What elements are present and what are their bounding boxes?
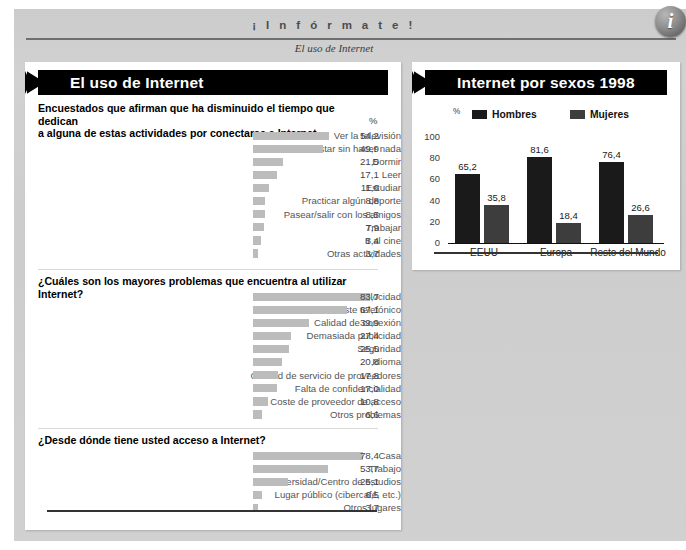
bar-row-bar-wrap [253,465,328,473]
bar-row: Calidad de conexión39,9 [25,316,401,329]
grouped-bar-mujeres [556,223,581,243]
bar-row-value: 6,5 [345,488,379,501]
bar-row-bar [253,410,262,418]
bar-row-bar [253,384,277,392]
bar-row-bar [253,236,261,244]
bar-row-bar [253,397,268,405]
left-panel-titlebar: El uso de Internet [38,70,388,95]
bar-row-value: 11,6 [345,181,379,194]
y-axis-tick-label: 60 [416,173,440,184]
bar-row-value: 17,1 [345,168,379,181]
bar-row: Coste telefónico67,1 [25,303,401,316]
bar-row-bar-wrap [253,384,277,392]
bar-row-value: 25,5 [345,342,379,355]
grouped-bar-hombres [455,174,480,243]
legend-item-hombres: Hombres [472,109,537,120]
bar-row-bar-wrap [253,145,323,153]
bar-row-bar-wrap [253,184,269,192]
bar-row-value: 49,9 [345,142,379,155]
bar-row-bar [253,184,269,192]
bar-row: Estudiar11,6 [25,181,401,194]
bar-row-bar-wrap [253,345,289,353]
bar-row-value: 78,4 [345,449,379,462]
bar-row-bar [253,491,262,499]
bar-row: Practicar algún deporte8,8 [25,194,401,207]
bar-row-value: 27,4 [345,329,379,342]
legend-swatch [472,110,487,119]
bar-row-value: 17,0 [345,382,379,395]
bar-row: Trabajar7,9 [25,221,401,234]
left-panel: El uso de Internet Encuestados que afirm… [25,62,401,530]
bar-row: Ver la televisión54,2 [25,129,401,142]
bar-row-bar [253,465,328,473]
bar-value-label: 35,8 [480,192,514,203]
bar-row-bar [253,171,277,179]
bar-row-bar [253,223,264,231]
bar-row-bar [253,306,347,314]
right-panel-titlebar: Internet por sexos 1998 [425,70,667,95]
masthead-subtitle: El uso de Internet [14,42,654,54]
bar-value-label: 76,4 [595,149,629,160]
bar-row-bar-wrap [253,171,277,179]
bar-row-bar-wrap [253,397,268,405]
masthead-divider [26,38,676,40]
bar-value-label: 18,4 [552,210,586,221]
y-axis-tick-label: 0 [416,237,440,248]
chevron-right-icon [410,70,440,95]
y-axis-tick-label: 80 [416,152,440,163]
bar-row-value: 20,8 [345,355,379,368]
bar-row-bar [253,132,329,140]
bar-row-bar [253,197,265,205]
bar-row: Casa78,4 [25,449,401,462]
bar-row-bar-wrap [253,491,262,499]
info-badge-icon: i [655,6,686,37]
masthead-title: ¡ I n f ó r m a t e ! [14,19,654,31]
bar-row: Estar sin hacer nada49,9 [25,142,401,155]
bar-row-value: 53,7 [345,462,379,475]
bar-row: Ir al cine5,4 [25,234,401,247]
bar-row: Trabajo53,7 [25,462,401,475]
bar-row-bar-wrap [253,210,265,218]
percent-marker-1: % [369,115,377,126]
bar-row-value: 54,2 [345,129,379,142]
bar-row: Pasear/salir con los amigos8,5 [25,208,401,221]
bar-row-bar [253,210,265,218]
bar-row-bar [253,332,291,340]
bar-row-value: 3,7 [345,501,379,514]
bar-value-label: 26,6 [624,202,658,213]
right-panel-bottom-rule [434,252,658,254]
bar-row: Dormir21,5 [25,155,401,168]
bar-row-value: 67,1 [345,303,379,316]
bar-row: Otros problemas6,6 [25,408,401,421]
grouped-bar-hombres [527,157,552,243]
bar-row-bar [253,358,282,366]
bar-row-bar [253,371,278,379]
infographic-page: ¡ I n f ó r m a t e ! El uso de Internet… [0,0,686,550]
right-panel: Internet por sexos 1998 HombresMujeres%0… [412,62,680,270]
info-badge-letter: i [655,6,686,37]
bar-row-bar-wrap [253,478,288,486]
bar-row-value: 25,1 [345,475,379,488]
bar-row-bar-wrap [253,158,283,166]
bar-row: Universidad/Centro de estudios25,1 [25,475,401,488]
bar-row-bar [253,345,289,353]
bar-row: Velocidad83,7 [25,290,401,303]
bar-rows-section-2: Velocidad83,7Coste telefónico67,1Calidad… [25,290,401,421]
bar-rows-section-3: Casa78,4Trabajo53,7Universidad/Centro de… [25,449,401,514]
bar-row-bar-wrap [253,358,282,366]
bar-row-bar [253,478,288,486]
bar-row-bar-wrap [253,223,264,231]
bar-row-bar [253,319,309,327]
section-heading-3: ¿Desde dónde tiene usted acceso a Intern… [38,434,383,447]
grouped-bar-hombres [599,162,624,243]
legend-item-mujeres: Mujeres [570,109,629,120]
bar-value-label: 81,6 [523,144,557,155]
bar-row-bar-wrap [253,332,291,340]
bar-row-value: 39,9 [345,316,379,329]
grouped-bar-mujeres [628,215,653,243]
bar-rows-section-1: Ver la televisión54,2Estar sin hacer nad… [25,129,401,260]
y-axis-tick-label: 100 [416,131,440,142]
bar-row-value: 7,9 [345,221,379,234]
bar-row-bar-wrap [253,132,329,140]
bar-row-value: 8,5 [345,208,379,221]
